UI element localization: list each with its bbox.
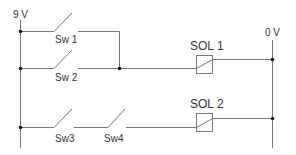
solenoid-sol1 (197, 56, 273, 74)
junction-dot (271, 58, 275, 62)
ground-label: 0 V (265, 27, 280, 38)
circuit-diagram: 9 V 0 V Sw 1 Sw 2 Sw3 Sw4 SOL 1 SOL 2 (0, 0, 296, 155)
solenoid-label-sol1: SOL 1 (190, 39, 224, 53)
switch-sw3 (20, 109, 72, 128)
switch-label-sw4: Sw4 (104, 133, 124, 144)
switch-sw4 (74, 109, 196, 128)
switch-sw2 (20, 50, 196, 69)
junction-dot (19, 30, 23, 34)
junction-dot (19, 67, 23, 71)
junction-dot (19, 126, 23, 130)
switch-label-sw1: Sw 1 (55, 34, 78, 45)
switch-label-sw3: Sw3 (55, 133, 75, 144)
solenoid-sol2 (197, 114, 273, 132)
solenoid-label-sol2: SOL 2 (190, 97, 224, 111)
junction-dot (271, 117, 275, 121)
switch-label-sw2: Sw 2 (55, 72, 78, 83)
supply-label: 9 V (13, 9, 28, 20)
junction-dot (118, 67, 122, 71)
